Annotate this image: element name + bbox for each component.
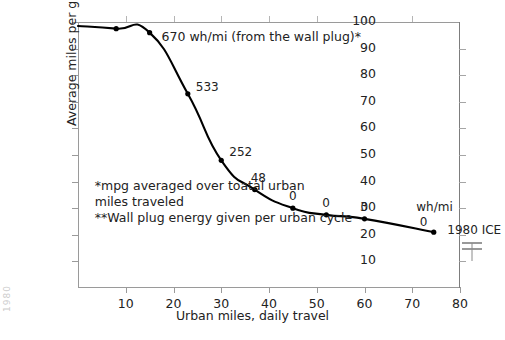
- right-tick-90: [459, 49, 466, 50]
- right-tick-50: [459, 155, 466, 156]
- footnote-mpg: *mpg averaged over toatal urban miles tr…: [95, 178, 305, 211]
- wh-mi-units-label: wh/mi: [416, 200, 453, 214]
- data-point-60: [362, 216, 367, 221]
- data-point-74.5: [431, 230, 436, 235]
- right-tick-70: [459, 102, 466, 103]
- right-tick-40: [459, 182, 466, 183]
- right-tick-30: [459, 208, 466, 209]
- data-point-23: [185, 91, 190, 96]
- data-point-30: [219, 158, 224, 163]
- wall-plug-annotation: 670 wh/mi (from the wall plug)*: [162, 29, 361, 45]
- right-tick-80: [459, 75, 466, 76]
- point-label-23: 533: [196, 80, 219, 94]
- page-edge-artifact: 1980: [2, 200, 11, 312]
- x-axis-title: Urban miles, daily travel: [0, 308, 505, 323]
- point-label-52: 0: [322, 196, 330, 210]
- footnote-wall-plug: **Wall plug energy given per urban cycle: [95, 210, 352, 226]
- ice-bracket-marker: [459, 237, 485, 263]
- x-tick-80: [460, 287, 461, 293]
- data-point-8: [114, 26, 119, 31]
- point-label-30: 252: [229, 145, 252, 159]
- point-label-60: 0: [361, 200, 369, 214]
- y-axis-title: Average miles per gallon*: [64, 0, 79, 126]
- plot-area: 102030405060708090100 1020304050607080 5…: [78, 22, 460, 288]
- chart-figure: 1980 102030405060708090100 1020304050607…: [0, 0, 505, 340]
- ice-reference-label: 1980 ICE: [447, 223, 501, 237]
- data-curve: [78, 22, 460, 288]
- point-label-74.5: 0: [420, 215, 428, 229]
- right-tick-60: [459, 128, 466, 129]
- data-point-15: [147, 30, 152, 35]
